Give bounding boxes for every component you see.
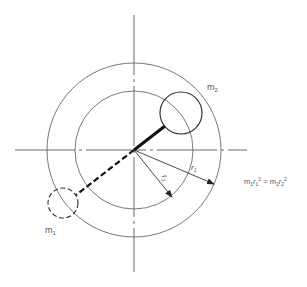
mass-m1-circle: [48, 188, 78, 218]
label-r1: r1: [191, 163, 197, 173]
balancing-diagram: m2 m1 r1 r2 m1r12 = m2r22: [0, 0, 307, 287]
label-r2: r2: [159, 173, 170, 183]
label-m1: m1: [45, 225, 57, 236]
arm-m1: [76, 150, 134, 195]
label-m2: m2: [207, 82, 219, 93]
mass-m2-circle: [160, 92, 202, 134]
radius-r1-arrow: [134, 150, 214, 184]
balance-equation: m1r12 = m2r22: [244, 176, 287, 187]
arm-m2: [134, 126, 165, 150]
